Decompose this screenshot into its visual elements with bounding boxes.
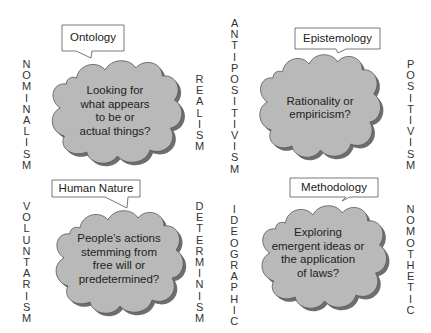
epistemology-question-line: Rationality or	[286, 95, 353, 109]
human-nature-question-line: predetermined?	[77, 273, 161, 287]
methodology-question: Exploring emergent ideas or the applicat…	[262, 222, 374, 284]
human-nature-label: Human Nature	[52, 182, 140, 194]
methodology-question-line: of laws?	[272, 267, 365, 281]
pole-letter: S	[231, 152, 238, 163]
pole-ideographic: IDEOGRAPHIC	[230, 204, 239, 327]
pole-letter: I	[409, 137, 412, 148]
ontology-question: Looking for what appears to be or actual…	[70, 80, 160, 142]
epistemology-question: Rationality or empiricism?	[270, 88, 370, 128]
human-nature-question-line: stemming from	[77, 246, 161, 260]
ontology-question-line: actual things?	[80, 125, 151, 139]
methodology-question-line: emergent ideas or	[272, 240, 365, 254]
pole-nomothetic: NOMOTHETIC	[406, 204, 415, 316]
pole-letter: M	[230, 164, 239, 175]
pole-letter: L	[24, 223, 30, 234]
pole-letter: M	[22, 313, 31, 324]
methodology-question-line: Exploring	[272, 226, 365, 240]
pole-letter: M	[22, 160, 31, 171]
pole-antipositivism: ANTIPOSITIVISM	[230, 18, 239, 175]
pole-letter: T	[231, 40, 238, 51]
ontology-question-line: Looking for	[80, 84, 151, 98]
pole-voluntarism: VOLUNTARISM	[22, 201, 31, 324]
epistemology-question-line: empiricism?	[286, 108, 353, 122]
pole-letter: T	[407, 282, 414, 293]
pole-letter: E	[231, 226, 238, 237]
pole-letter: S	[407, 81, 414, 92]
human-nature-question-line: People’s actions	[77, 232, 161, 246]
pole-positivism: POSITIVISM	[406, 59, 415, 171]
pole-realism: REALISM	[195, 74, 204, 152]
human-nature-question-line: free will or	[77, 259, 161, 273]
methodology-question-line: the application	[272, 253, 365, 267]
pole-letter: T	[196, 223, 203, 234]
pole-letter: M	[195, 313, 204, 324]
pole-letter: N	[196, 279, 204, 290]
pole-letter: M	[195, 141, 204, 152]
pole-letter: C	[230, 316, 238, 327]
epistemology-label: Epistemology	[295, 32, 380, 44]
methodology-label: Methodology	[290, 181, 378, 193]
pole-letter: C	[407, 305, 415, 316]
pole-letter: P	[231, 282, 238, 293]
pole-letter: M	[406, 160, 415, 171]
pole-letter: A	[196, 96, 203, 107]
pole-letter: M	[406, 226, 415, 237]
ontology-question-line: what appears	[80, 98, 151, 112]
human-nature-question: People’s actions stemming from free will…	[68, 228, 170, 290]
pole-letter: M	[22, 81, 31, 92]
ontology-label: Ontology	[62, 31, 124, 43]
pole-letter: I	[25, 137, 28, 148]
pole-nominalism: NOMINALISM	[22, 59, 31, 171]
pole-letter: I	[233, 96, 236, 107]
pole-determinism: DETERMINISM	[195, 201, 204, 324]
ontology-question-line: to be or	[80, 111, 151, 125]
pole-letter: R	[23, 279, 31, 290]
